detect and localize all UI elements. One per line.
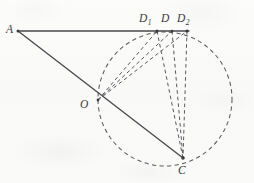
point-label-D2: D2 [177, 13, 189, 25]
segment-D-C [172, 31, 183, 158]
point-label-C: C [178, 165, 186, 177]
circle-outline [98, 32, 232, 166]
segment-A-C [18, 31, 183, 158]
point-label-O: O [80, 99, 88, 111]
segment-O-D [98, 31, 172, 100]
segment-D1-C [157, 31, 183, 158]
subscript-1: 1 [148, 18, 152, 27]
point-label-A: A [6, 24, 13, 36]
subscript-2: 2 [186, 18, 190, 27]
point-label-D: D [161, 13, 169, 25]
figure-canvas [0, 0, 254, 183]
point-D-marker [171, 30, 174, 33]
geometry-figure: A D1 D D2 O C [0, 0, 254, 183]
point-A-marker [17, 30, 20, 33]
point-C-marker [181, 156, 185, 160]
segment-D2-C [183, 31, 187, 158]
point-O-marker [97, 99, 100, 102]
point-D1-marker [156, 30, 159, 33]
segment-O-D2 [98, 31, 187, 100]
point-label-D1: D1 [139, 13, 151, 25]
point-D2-marker [185, 29, 188, 32]
